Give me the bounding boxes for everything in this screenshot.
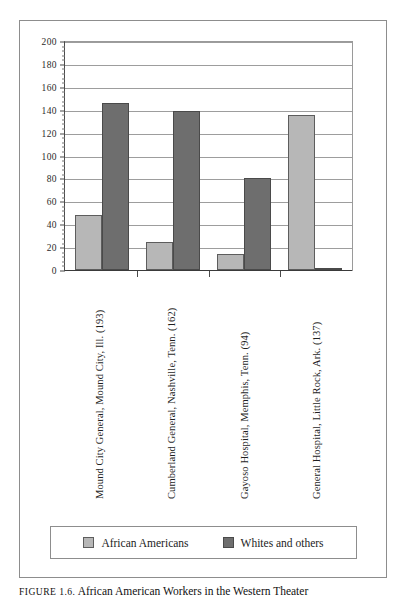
y-minor-tick (62, 183, 65, 184)
legend-item-african-americans: African Americans (83, 537, 188, 549)
y-tick-mark-80 (60, 179, 65, 180)
bar-group (280, 42, 351, 270)
y-minor-tick (62, 69, 65, 70)
figure-frame: 020406080100120140160180200 Mound City G… (19, 20, 387, 578)
x-axis-label: Cumberland General, Nashville, Tenn. (16… (166, 308, 177, 499)
y-tick-mark-20 (60, 248, 65, 249)
y-tick-label-60: 60 (47, 197, 57, 207)
y-minor-tick (62, 129, 65, 130)
y-minor-tick (62, 261, 65, 262)
y-minor-tick (62, 206, 65, 207)
bar-group (209, 42, 280, 270)
bar (173, 111, 200, 270)
y-tick-label-20: 20 (47, 243, 57, 253)
y-minor-tick (62, 78, 65, 79)
legend-swatch-whites-and-others (223, 537, 234, 548)
y-tick-mark-40 (60, 225, 65, 226)
bar-group (66, 42, 137, 270)
y-tick-mark-160 (60, 87, 65, 88)
figure-page: 020406080100120140160180200 Mound City G… (0, 0, 406, 605)
y-minor-tick (62, 106, 65, 107)
y-tick-mark-120 (60, 133, 65, 134)
y-minor-tick (62, 257, 65, 258)
y-tick-mark-180 (60, 64, 65, 65)
y-minor-tick (62, 83, 65, 84)
bar (315, 268, 342, 270)
y-minor-tick (62, 124, 65, 125)
y-minor-tick (62, 74, 65, 75)
y-minor-tick (62, 234, 65, 235)
y-tick-mark-200 (60, 42, 65, 43)
bars-group (66, 42, 351, 270)
y-tick-label-40: 40 (47, 220, 57, 230)
legend-swatch-african-americans (83, 537, 94, 548)
y-tick-label-100: 100 (42, 152, 57, 162)
x-axis-label: Mound City General, Mound City, Ill. (19… (94, 310, 105, 499)
y-minor-tick (62, 252, 65, 253)
bar (288, 115, 315, 270)
y-minor-tick (62, 174, 65, 175)
y-minor-tick (62, 151, 65, 152)
y-tick-label-120: 120 (42, 129, 57, 139)
y-minor-tick (62, 51, 65, 52)
y-minor-tick (62, 266, 65, 267)
y-minor-tick (62, 55, 65, 56)
y-minor-tick (62, 216, 65, 217)
y-minor-tick (62, 161, 65, 162)
x-axis-label: Gayoso Hospital, Memphis, Tenn. (94) (239, 332, 250, 499)
x-axis-separator (137, 271, 138, 277)
y-tick-label-80: 80 (47, 174, 57, 184)
plot-area: 020406080100120140160180200 (64, 41, 353, 271)
y-minor-tick (62, 188, 65, 189)
y-minor-tick (62, 101, 65, 102)
legend-label-whites-and-others: Whites and others (241, 537, 324, 549)
y-minor-tick (62, 60, 65, 61)
legend-label-african-americans: African Americans (101, 537, 188, 549)
y-minor-tick (62, 138, 65, 139)
y-tick-mark-100 (60, 156, 65, 157)
y-minor-tick (62, 147, 65, 148)
bar (102, 103, 129, 270)
x-axis-separator (209, 271, 210, 277)
y-minor-tick (62, 220, 65, 221)
y-tick-label-0: 0 (52, 266, 57, 276)
y-minor-tick (62, 238, 65, 239)
figure-caption-text: African American Workers in the Western … (75, 585, 308, 597)
y-minor-tick (62, 197, 65, 198)
figure-caption-prefix: FIGURE 1.6. (19, 586, 75, 597)
y-minor-tick (62, 96, 65, 97)
x-axis-label: General Hospital, Little Rock, Ark. (137… (311, 322, 322, 499)
plot-wrapper: 020406080100120140160180200 Mound City G… (20, 21, 386, 577)
bar (217, 254, 244, 270)
x-axis-labels-group: Mound City General, Mound City, Ill. (19… (64, 279, 353, 499)
bar (75, 215, 102, 270)
y-tick-label-160: 160 (42, 83, 57, 93)
figure-caption: FIGURE 1.6. African American Workers in … (19, 585, 399, 597)
y-tick-label-180: 180 (42, 60, 57, 70)
y-minor-tick (62, 46, 65, 47)
x-axis-separator (280, 271, 281, 277)
y-minor-tick (62, 211, 65, 212)
y-minor-tick (62, 243, 65, 244)
y-minor-tick (62, 193, 65, 194)
bar (146, 242, 173, 270)
y-minor-tick (62, 170, 65, 171)
y-minor-tick (62, 115, 65, 116)
y-tick-label-140: 140 (42, 106, 57, 116)
y-minor-tick (62, 165, 65, 166)
y-minor-tick (62, 142, 65, 143)
y-tick-mark-140 (60, 110, 65, 111)
y-minor-tick (62, 119, 65, 120)
y-minor-tick (62, 229, 65, 230)
bar-group (137, 42, 208, 270)
legend-item-whites-and-others: Whites and others (223, 537, 324, 549)
chart-legend: African Americans Whites and others (50, 526, 357, 559)
y-tick-label-200: 200 (42, 37, 57, 47)
y-tick-mark-60 (60, 202, 65, 203)
bar (244, 178, 271, 270)
y-minor-tick (62, 92, 65, 93)
